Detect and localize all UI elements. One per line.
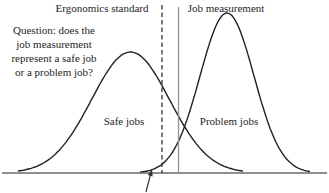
safe-jobs-label: Safe jobs	[94, 115, 154, 128]
ergonomics-standard-label: Ergonomics standard	[38, 2, 166, 15]
question-line-2: job measurement	[2, 37, 106, 51]
job-measurement-label: Job measurement	[176, 2, 276, 15]
problem-jobs-label: Problem jobs	[192, 115, 266, 128]
question-line-1: Question: does the	[2, 23, 106, 37]
question-line-3: represent a safe job	[2, 51, 106, 65]
question-line-4: or a problem job?	[2, 65, 106, 79]
ergonomics-diagram: Ergonomics standard Job measurement Ques…	[0, 0, 329, 193]
question-text: Question: does the job measurement repre…	[2, 23, 106, 79]
